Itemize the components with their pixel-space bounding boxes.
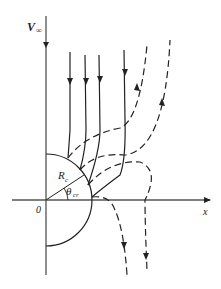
solid-arrows — [67, 69, 128, 85]
radius-subscript: c — [65, 176, 69, 184]
angle-subscript: cr — [73, 191, 79, 199]
x-axis-label: x — [202, 206, 208, 217]
solid-streamlines — [68, 50, 125, 197]
streamline-diagram: V ∞ R c θ cr 0 x — [0, 0, 221, 289]
freestream-label: V — [27, 20, 36, 34]
x-axis-arrow-icon — [204, 197, 211, 203]
x-axis — [12, 197, 211, 203]
dashed-arrows — [121, 83, 165, 260]
radius-label: R — [57, 169, 65, 181]
vertical-axis — [43, 16, 49, 275]
angle-label: θ — [66, 185, 72, 197]
freestream-subscript: ∞ — [36, 26, 42, 35]
freestream-arrow-icon — [43, 42, 49, 48]
origin-label: 0 — [36, 204, 41, 215]
